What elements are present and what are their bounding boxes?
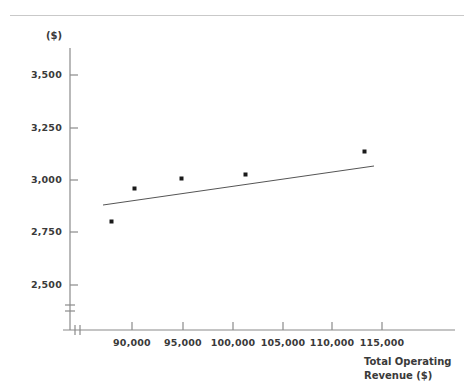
x-axis-title: Total Operating Revenue ($) [364, 355, 451, 383]
y-tick-label-3500: 3,500 [20, 69, 62, 80]
y-axis-unit-label: ($) [46, 30, 62, 41]
data-point [133, 187, 137, 191]
scatter-plot-canvas [0, 0, 474, 390]
x-tick-label-100000: 100,000 [207, 337, 259, 348]
x-tick-label-90000: 90,000 [109, 337, 155, 348]
data-point [363, 150, 367, 154]
y-tick-label-2500: 2,500 [20, 279, 62, 290]
y-tick-label-3000: 3,000 [20, 174, 62, 185]
x-tick-label-115000: 115,000 [356, 337, 408, 348]
trend-line [103, 166, 374, 205]
x-axis-title-line1: Total Operating [364, 355, 451, 369]
x-axis-title-line2: Revenue ($) [364, 369, 451, 383]
data-point [180, 177, 184, 181]
x-tick-label-110000: 110,000 [306, 337, 358, 348]
data-point [110, 220, 114, 224]
chart-figure: ($) 3,500 3,250 3,000 2,750 2,500 90,000… [0, 0, 474, 390]
x-tick-label-95000: 95,000 [160, 337, 206, 348]
data-point [244, 173, 248, 177]
x-tick-label-105000: 105,000 [257, 337, 309, 348]
y-tick-label-3250: 3,250 [20, 122, 62, 133]
y-tick-label-2750: 2,750 [20, 226, 62, 237]
